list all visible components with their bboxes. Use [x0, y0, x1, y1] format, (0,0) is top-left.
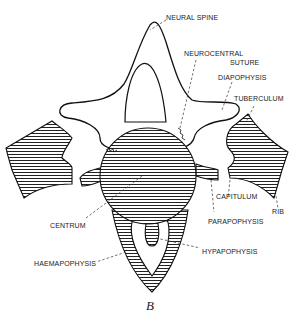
label-suture: SUTURE — [230, 59, 260, 66]
vertebra-diagram: NEURAL SPINE NEUROCENTRAL SUTURE DIAPOPH… — [0, 0, 294, 313]
centrum — [100, 128, 196, 224]
figure-caption: B — [146, 298, 154, 313]
label-centrum: CENTRUM — [50, 222, 86, 229]
right-rib — [227, 114, 288, 198]
leader-haemapophysis — [96, 252, 126, 262]
label-parapophysis: PARAPOPHYSIS — [208, 218, 264, 225]
leader-parapophysis — [211, 180, 214, 212]
right-parapophysis — [196, 164, 218, 180]
label-tuberculum: TUBERCULUM — [234, 95, 284, 102]
label-haemapophysis: HAEMAPOPHYSIS — [34, 260, 96, 267]
label-neural-spine: NEURAL SPINE — [166, 14, 219, 21]
label-diapophysis: DIAPOPHYSIS — [218, 74, 267, 81]
left-rib — [6, 121, 72, 198]
leader-rib — [276, 196, 278, 208]
label-neurocentral: NEUROCENTRAL — [184, 50, 243, 57]
label-rib: RIB — [272, 208, 284, 215]
label-capitulum: CAPITULUM — [216, 193, 257, 200]
label-hypapophysis: HYPAPOPHYSIS — [202, 248, 258, 255]
